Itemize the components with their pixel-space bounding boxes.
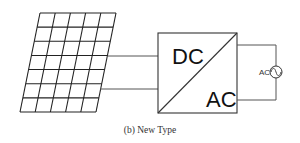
ac-source-label: AC (259, 68, 270, 77)
solar-panel (20, 13, 116, 112)
dc-wires (100, 56, 158, 89)
inverter-box: DC AC (158, 33, 237, 113)
panel-column-line (81, 13, 101, 112)
panel-column-line (66, 13, 86, 112)
ac-wire-top (237, 45, 276, 66)
panel-column-line (35, 13, 55, 112)
figure-caption: (b) New Type (124, 125, 176, 136)
inverter-ac-label: AC (206, 87, 237, 112)
ac-source: AC (259, 66, 282, 78)
panel-column-line (50, 13, 70, 112)
diagram-canvas: DC AC AC (b) New Type (0, 0, 300, 143)
panel-column-line (20, 13, 40, 112)
panel-column-line (96, 13, 116, 112)
ac-wire-bottom (237, 78, 276, 100)
inverter-dc-label: DC (172, 44, 204, 69)
